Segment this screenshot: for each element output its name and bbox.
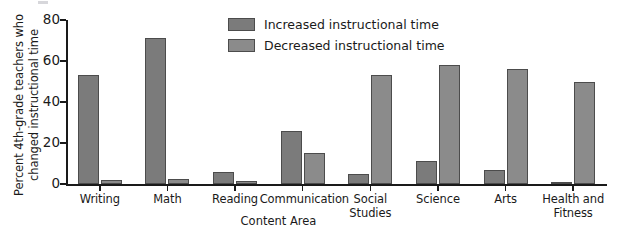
y-tick-mark — [60, 60, 66, 62]
x-tick-label-line: Health and — [530, 193, 616, 207]
bar — [348, 174, 369, 184]
chart-legend: Increased instructional timeDecreased in… — [228, 15, 488, 57]
y-tick-mark — [60, 19, 66, 21]
bar — [168, 179, 189, 184]
x-axis-line — [66, 184, 607, 186]
legend-item: Decreased instructional time — [228, 36, 488, 55]
y-tick-label: 80 — [34, 13, 60, 27]
bar — [304, 153, 325, 184]
x-tick-mark — [167, 185, 169, 191]
x-tick-mark — [437, 185, 439, 191]
bar — [416, 161, 437, 184]
y-tick-label: 0 — [34, 177, 60, 191]
y-tick-label: 20 — [34, 136, 60, 150]
legend-item: Increased instructional time — [228, 15, 488, 34]
bar — [551, 182, 572, 184]
x-tick-label-line: Fitness — [530, 207, 616, 221]
y-tick-mark — [60, 101, 66, 103]
x-axis-title: Content Area — [0, 214, 621, 228]
y-tick-mark — [60, 142, 66, 144]
legend-swatch-decreased — [228, 39, 255, 52]
x-tick-mark — [99, 185, 101, 191]
legend-swatch-increased — [228, 18, 255, 31]
legend-label: Decreased instructional time — [264, 39, 445, 53]
x-tick-label-line: Studies — [327, 207, 413, 221]
x-tick-mark — [302, 185, 304, 191]
y-axis-tick-labels: 020406080 — [30, 0, 60, 235]
bar — [507, 69, 528, 184]
x-tick-mark — [505, 185, 507, 191]
bar — [236, 181, 257, 184]
x-tick-mark — [370, 185, 372, 191]
bar-chart-figure: Percent 4th-grade teachers who changed i… — [0, 0, 621, 235]
bar — [145, 38, 166, 184]
y-axis-line — [66, 20, 68, 185]
y-tick-label: 60 — [34, 54, 60, 68]
bar — [78, 75, 99, 184]
bar — [439, 65, 460, 184]
y-tick-mark — [60, 183, 66, 185]
bar — [213, 172, 234, 184]
x-axis-title-text: Content Area — [241, 214, 317, 228]
y-tick-label: 40 — [34, 95, 60, 109]
bar — [574, 82, 595, 185]
x-tick-mark — [234, 185, 236, 191]
x-tick-mark — [572, 185, 574, 191]
x-tick-label: Health andFitness — [530, 193, 616, 220]
y-axis-title-line-1: Percent 4th-grade teachers who — [12, 10, 27, 200]
bar — [101, 180, 122, 184]
bar — [484, 170, 505, 184]
bar — [371, 75, 392, 184]
legend-label: Increased instructional time — [264, 18, 439, 32]
bar — [281, 131, 302, 184]
